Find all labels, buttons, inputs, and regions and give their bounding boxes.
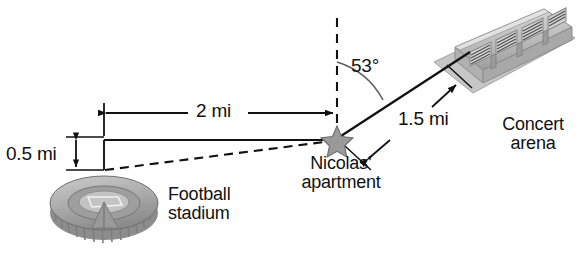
label-concert-arena: Concert arena [487,115,579,154]
label-angle-53: 53° [351,56,379,77]
label-football-stadium-line1: Football [168,185,288,204]
label-two-miles: 2 mi [196,101,231,122]
diagram-canvas: ··· [0,0,584,259]
football-stadium-illustration [50,176,158,243]
label-nicolas-apartment-line2: apartment [278,173,404,192]
dimension-half-mi [66,137,104,170]
label-nicolas-apartment-line1: Nicolas’ [278,154,404,173]
label-football-stadium-line2: stadium [168,204,288,223]
label-concert-arena-line1: Concert [487,115,579,134]
label-concert-arena-line2: arena [487,134,579,153]
label-one-point-five-miles: 1.5 mi [398,109,449,130]
label-football-stadium: Football stadium [168,185,288,224]
label-half-mile: 0.5 mi [6,144,57,165]
label-nicolas-apartment: Nicolas’ apartment [278,154,404,193]
concert-arena-illustration [434,8,575,93]
